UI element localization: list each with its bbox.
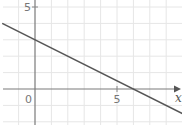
grid bbox=[3, 0, 182, 125]
x-axis-label: x bbox=[175, 91, 182, 105]
chart: 055 x bbox=[0, 0, 182, 133]
y-tick-label: 5 bbox=[24, 1, 31, 14]
x-tick-label: 0 bbox=[25, 93, 32, 106]
ticks: 055 bbox=[24, 1, 121, 106]
x-tick-label: 5 bbox=[114, 93, 121, 106]
